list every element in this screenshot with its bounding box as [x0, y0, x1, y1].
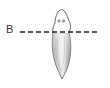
planarian-head [53, 10, 71, 33]
planarian-diagram [0, 0, 110, 88]
